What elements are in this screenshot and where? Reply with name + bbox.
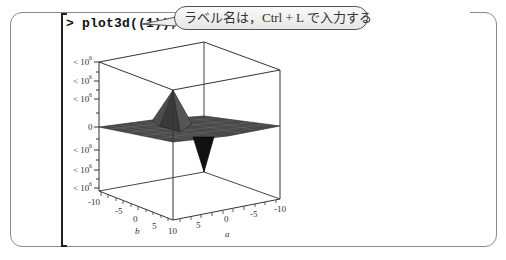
svg-text:< 10: < 10 xyxy=(73,94,90,104)
surface xyxy=(99,90,280,172)
svg-text:< 10: < 10 xyxy=(73,57,90,67)
svg-text:5: 5 xyxy=(196,220,201,230)
b-axis-label: b xyxy=(135,226,140,236)
svg-text:-5: -5 xyxy=(250,209,258,219)
label-hint-callout: ラベル名は，Ctrl + L で入力する xyxy=(174,6,368,30)
svg-text:6: 6 xyxy=(89,143,92,149)
svg-text:-10: -10 xyxy=(274,204,286,214)
svg-text:-5: -5 xyxy=(115,206,123,216)
svg-text:6: 6 xyxy=(89,163,92,169)
svg-text:10: 10 xyxy=(168,226,178,236)
a-axis-labels: 5 0 -5 -10 a xyxy=(196,204,286,239)
svg-text:0: 0 xyxy=(133,214,138,224)
svg-text:6: 6 xyxy=(89,74,92,80)
svg-text:6: 6 xyxy=(89,181,92,187)
z-axis-labels: < 106 < 106 < 106 0 < 106 < 106 < 106 xyxy=(73,55,93,193)
svg-text:-10: -10 xyxy=(88,197,100,207)
plot3d-output[interactable]: < 106 < 106 < 106 0 < 106 < 106 < 106 -1… xyxy=(0,0,506,260)
svg-text:< 10: < 10 xyxy=(73,145,90,155)
svg-text:6: 6 xyxy=(89,92,92,98)
svg-text:0: 0 xyxy=(88,122,93,132)
callout-pointer xyxy=(143,17,176,26)
svg-text:0: 0 xyxy=(224,214,229,224)
svg-text:5: 5 xyxy=(152,221,157,231)
a-axis-label: a xyxy=(225,229,230,239)
z-axis xyxy=(94,62,99,188)
svg-text:< 10: < 10 xyxy=(73,76,90,86)
svg-text:< 10: < 10 xyxy=(73,165,90,175)
svg-text:< 10: < 10 xyxy=(73,183,90,193)
svg-text:6: 6 xyxy=(89,55,92,61)
